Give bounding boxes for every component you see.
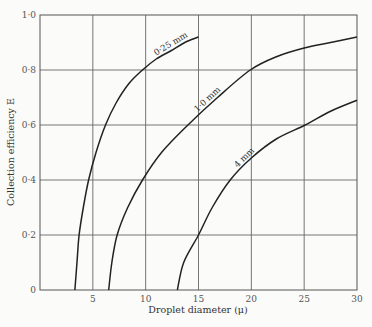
curve-label: 1·0 mm — [192, 84, 222, 113]
x-tick-label: 25 — [298, 294, 310, 304]
y-tick-label: 0·6 — [22, 120, 37, 130]
x-tick-label: 10 — [140, 294, 152, 304]
y-tick-label: 0·2 — [22, 230, 36, 240]
y-tick-label: 0·8 — [22, 65, 37, 75]
x-tick-label: 15 — [193, 294, 205, 304]
y-tick-label: 0·4 — [22, 175, 37, 185]
x-tick-label: 30 — [351, 294, 363, 304]
curve-series-2 — [177, 100, 357, 290]
grid — [40, 15, 357, 290]
y-tick-label: 0 — [30, 285, 36, 295]
tick-labels: 5101520253000·20·40·60·81·0 — [22, 10, 363, 304]
x-axis-label: Droplet diameter (μ) — [148, 304, 247, 315]
curve-series-0 — [75, 37, 199, 290]
y-tick-label: 1·0 — [22, 10, 37, 20]
x-tick-label: 5 — [90, 294, 96, 304]
collection-efficiency-chart: 5101520253000·20·40·60·81·0 0·25 mm1·0 m… — [0, 0, 372, 327]
curves — [75, 37, 357, 290]
y-axis-label: Collection efficiency E — [5, 98, 16, 206]
x-tick-label: 20 — [246, 294, 258, 304]
curve-labels: 0·25 mm1·0 mm4 mm — [152, 30, 256, 170]
